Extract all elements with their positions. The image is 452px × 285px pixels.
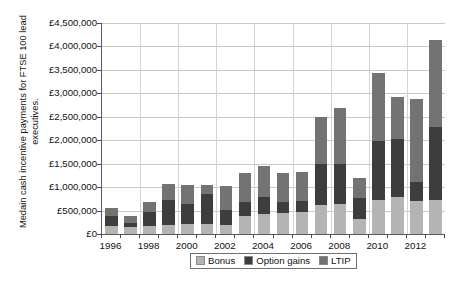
bar-segment-opt	[372, 141, 385, 200]
bar-segment-ltip	[162, 184, 175, 200]
bar-segment-bonus	[315, 205, 328, 234]
x-axis-tick-mark	[292, 234, 293, 238]
x-axis-tick-mark	[330, 234, 331, 238]
bar-segment-bonus	[181, 224, 194, 234]
bar-column[interactable]	[315, 117, 328, 234]
x-axis-tick-label: 2008	[328, 240, 350, 251]
x-axis-tick-mark	[215, 234, 216, 238]
plot-area	[101, 23, 445, 235]
bar-column[interactable]	[296, 172, 309, 234]
y-axis-tick-label: £2,500,000	[23, 111, 97, 122]
bar-segment-opt	[143, 212, 156, 226]
x-axis-tick-label: 2012	[405, 240, 427, 251]
bar-segment-ltip	[353, 178, 366, 198]
x-axis-tick-label: 2000	[176, 240, 198, 251]
bar-segment-bonus	[220, 225, 233, 234]
bar-column[interactable]	[391, 97, 404, 234]
bar-column[interactable]	[162, 184, 175, 234]
bar-column[interactable]	[143, 202, 156, 234]
bar-column[interactable]	[429, 40, 442, 234]
legend-label: Bonus	[208, 255, 235, 266]
bar-segment-bonus	[143, 226, 156, 234]
y-axis-tick-label: £4,000,000	[23, 40, 97, 51]
bar-segment-opt	[296, 201, 309, 213]
bar-segment-ltip	[220, 186, 233, 210]
y-axis-tick-label: £3,500,000	[23, 64, 97, 75]
bar-segment-ltip	[391, 97, 404, 140]
bar-segment-bonus	[277, 213, 290, 234]
x-axis-tick-mark	[425, 234, 426, 238]
bar-segment-bonus	[334, 204, 347, 234]
bar-segment-opt	[410, 182, 423, 202]
bar-segment-bonus	[105, 226, 118, 234]
bar-segment-opt	[162, 200, 175, 224]
y-axis-tick-label: £3,000,000	[23, 87, 97, 98]
x-axis-tick-label: 2004	[252, 240, 274, 251]
x-axis-tick-mark	[234, 234, 235, 238]
bar-column[interactable]	[334, 108, 347, 234]
bar-column[interactable]	[201, 185, 214, 234]
bar-column[interactable]	[220, 186, 233, 234]
y-axis-tick-label: £0	[23, 228, 97, 239]
bar-segment-opt	[391, 139, 404, 197]
x-axis-tick-label: 1996	[100, 240, 122, 251]
bar-segment-ltip	[181, 185, 194, 204]
bar-column[interactable]	[372, 73, 385, 234]
x-axis-tick-mark	[311, 234, 312, 238]
bar-column[interactable]	[277, 173, 290, 234]
bar-column[interactable]	[353, 178, 366, 234]
y-axis-tick-label: £1,000,000	[23, 181, 97, 192]
y-axis-tick-label: £1,500,000	[23, 158, 97, 169]
bar-segment-bonus	[372, 200, 385, 234]
bar-segment-bonus	[391, 197, 404, 234]
bar-segment-bonus	[296, 212, 309, 234]
bar-segment-opt	[334, 164, 347, 205]
bar-segment-ltip	[258, 166, 271, 197]
bar-column[interactable]	[105, 208, 118, 234]
bar-segment-ltip	[315, 117, 328, 164]
legend-swatch	[244, 256, 253, 265]
bar-column[interactable]	[410, 99, 423, 234]
bar-segment-ltip	[296, 172, 309, 201]
bar-segment-opt	[220, 210, 233, 225]
bar-column[interactable]	[239, 173, 252, 234]
legend-item[interactable]: Bonus	[196, 255, 235, 266]
legend-swatch	[319, 256, 328, 265]
bar-segment-ltip	[334, 108, 347, 163]
caption-strip	[150, 276, 410, 285]
x-axis-tick-mark	[158, 234, 159, 238]
bar-column[interactable]	[124, 216, 137, 234]
bar-segment-opt	[258, 197, 271, 214]
y-axis-tick-label: £4,500,000	[23, 17, 97, 28]
legend-swatch	[196, 256, 205, 265]
y-axis-tick-label: £2,000,000	[23, 134, 97, 145]
x-axis-tick-label: 1998	[138, 240, 160, 251]
bar-segment-ltip	[277, 173, 290, 202]
bar-segment-ltip	[410, 99, 423, 182]
bar-segment-opt	[429, 127, 442, 200]
x-axis-tick-mark	[273, 234, 274, 238]
y-axis-tick-label: £500,000	[23, 205, 97, 216]
x-axis-tick-mark	[139, 234, 140, 238]
bar-segment-ltip	[372, 73, 385, 141]
bar-segment-opt	[201, 194, 214, 224]
bar-segment-opt	[181, 204, 194, 224]
bar-column[interactable]	[181, 185, 194, 234]
bar-segment-bonus	[239, 216, 252, 234]
x-axis-tick-mark	[368, 234, 369, 238]
x-axis-tick-mark	[406, 234, 407, 238]
bar-segment-opt	[239, 202, 252, 216]
x-axis-tick-mark	[444, 234, 445, 238]
bar-segment-bonus	[353, 219, 366, 234]
bar-column[interactable]	[258, 166, 271, 234]
chart-legend: BonusOption gainsLTIP	[190, 253, 357, 269]
x-axis-tick-mark	[387, 234, 388, 238]
bar-segment-bonus	[201, 224, 214, 234]
x-axis-tick-mark	[253, 234, 254, 238]
bar-segment-ltip	[105, 208, 118, 216]
x-axis-tick-label: 2006	[290, 240, 312, 251]
bar-segment-ltip	[143, 202, 156, 211]
legend-item[interactable]: Option gains	[244, 255, 310, 266]
bar-segment-opt	[315, 164, 328, 205]
legend-item[interactable]: LTIP	[319, 255, 351, 266]
